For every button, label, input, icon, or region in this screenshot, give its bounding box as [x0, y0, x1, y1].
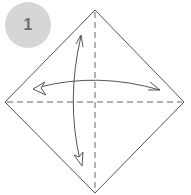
origami-diagram — [0, 0, 191, 195]
horizontal-fold-arrow-icon — [33, 80, 160, 95]
vertical-fold-arrow-icon — [73, 35, 83, 166]
